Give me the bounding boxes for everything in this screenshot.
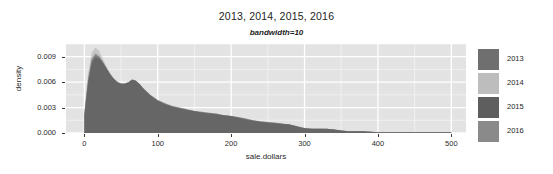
legend-item-2014[interactable]: 2014 bbox=[478, 71, 548, 95]
x-tick-mark bbox=[158, 134, 159, 137]
y-tick-mark bbox=[62, 108, 65, 109]
x-tick-mark bbox=[451, 134, 452, 137]
y-tick-mark bbox=[62, 82, 65, 83]
legend-swatch-icon bbox=[478, 121, 499, 142]
x-tick-label: 500 bbox=[436, 139, 466, 148]
x-tick-label: 200 bbox=[216, 139, 246, 148]
x-tick-mark bbox=[84, 134, 85, 137]
legend-item-2013[interactable]: 2013 bbox=[478, 47, 548, 71]
plot-panel bbox=[66, 44, 466, 133]
legend-item-2016[interactable]: 2016 bbox=[478, 119, 548, 143]
x-axis-title: sale.dollars bbox=[66, 152, 466, 161]
legend: 2013201420152016 bbox=[478, 47, 548, 143]
x-tick-mark bbox=[305, 134, 306, 137]
legend-swatch-icon bbox=[478, 73, 499, 94]
y-tick-label: 0.009 bbox=[22, 52, 56, 61]
y-tick-mark bbox=[62, 57, 65, 58]
y-tick-label: 0.003 bbox=[22, 103, 56, 112]
legend-label: 2015 bbox=[507, 103, 524, 111]
y-tick-label: 0.000 bbox=[22, 128, 56, 137]
legend-item-2015[interactable]: 2015 bbox=[478, 95, 548, 119]
x-tick-mark bbox=[378, 134, 379, 137]
y-tick-mark bbox=[62, 133, 65, 134]
density-plot-figure: 2013, 2014, 2015, 2016 bandwidth=10 dens… bbox=[0, 0, 553, 174]
chart-title: 2013, 2014, 2015, 2016 bbox=[0, 10, 553, 22]
x-tick-label: 0 bbox=[69, 139, 99, 148]
x-tick-mark bbox=[231, 134, 232, 137]
legend-label: 2016 bbox=[507, 127, 524, 135]
x-tick-label: 300 bbox=[290, 139, 320, 148]
legend-label: 2014 bbox=[507, 79, 524, 87]
x-tick-label: 400 bbox=[363, 139, 393, 148]
y-tick-label: 0.006 bbox=[22, 77, 56, 86]
x-tick-label: 100 bbox=[143, 139, 173, 148]
plot-area-svg bbox=[66, 44, 466, 133]
legend-label: 2013 bbox=[507, 55, 524, 63]
legend-swatch-icon bbox=[478, 97, 499, 118]
legend-swatch-icon bbox=[478, 49, 499, 70]
chart-subtitle: bandwidth=10 bbox=[0, 28, 553, 37]
